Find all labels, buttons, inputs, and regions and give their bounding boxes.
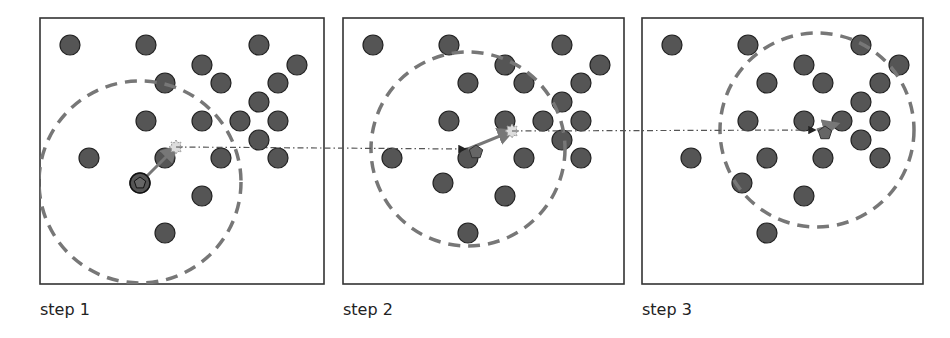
data-point	[794, 55, 814, 75]
data-point	[738, 111, 758, 131]
data-point	[757, 148, 777, 168]
data-point	[495, 186, 515, 206]
data-point	[870, 111, 890, 131]
data-point	[552, 130, 572, 150]
data-point	[249, 35, 269, 55]
data-point	[870, 148, 890, 168]
data-point	[662, 35, 682, 55]
data-point	[571, 73, 591, 93]
panel-step-2	[343, 18, 624, 284]
data-point	[757, 223, 777, 243]
data-point	[79, 148, 99, 168]
data-point	[794, 186, 814, 206]
data-point	[211, 148, 231, 168]
data-point	[192, 186, 212, 206]
data-point	[287, 55, 307, 75]
data-point	[433, 173, 453, 193]
data-point	[268, 148, 288, 168]
data-point	[382, 148, 402, 168]
data-point	[757, 73, 777, 93]
data-point	[268, 111, 288, 131]
data-point	[268, 73, 288, 93]
data-point	[155, 223, 175, 243]
mean-shift-diagram	[0, 0, 950, 338]
data-point	[851, 92, 871, 112]
data-point	[439, 111, 459, 131]
data-point	[514, 148, 534, 168]
data-point	[590, 55, 610, 75]
data-point	[192, 111, 212, 131]
panel-step-3	[642, 18, 923, 284]
data-point	[211, 73, 231, 93]
data-point	[738, 35, 758, 55]
data-point	[813, 73, 833, 93]
data-point	[363, 35, 383, 55]
data-point	[889, 55, 909, 75]
data-point	[813, 148, 833, 168]
data-point	[458, 73, 478, 93]
step-1-label: step 1	[40, 300, 90, 319]
step-2-label: step 2	[343, 300, 393, 319]
data-point	[571, 111, 591, 131]
data-point	[458, 223, 478, 243]
data-point	[60, 35, 80, 55]
data-point	[230, 111, 250, 131]
data-point	[249, 92, 269, 112]
data-point	[681, 148, 701, 168]
data-point	[851, 130, 871, 150]
data-point	[794, 111, 814, 131]
data-point	[192, 55, 212, 75]
data-point	[136, 111, 156, 131]
data-point	[552, 35, 572, 55]
panel-step-1	[39, 18, 324, 284]
data-point	[571, 148, 591, 168]
data-point	[832, 111, 852, 131]
data-point	[870, 73, 890, 93]
data-point	[136, 35, 156, 55]
data-point	[533, 111, 553, 131]
step-3-label: step 3	[642, 300, 692, 319]
